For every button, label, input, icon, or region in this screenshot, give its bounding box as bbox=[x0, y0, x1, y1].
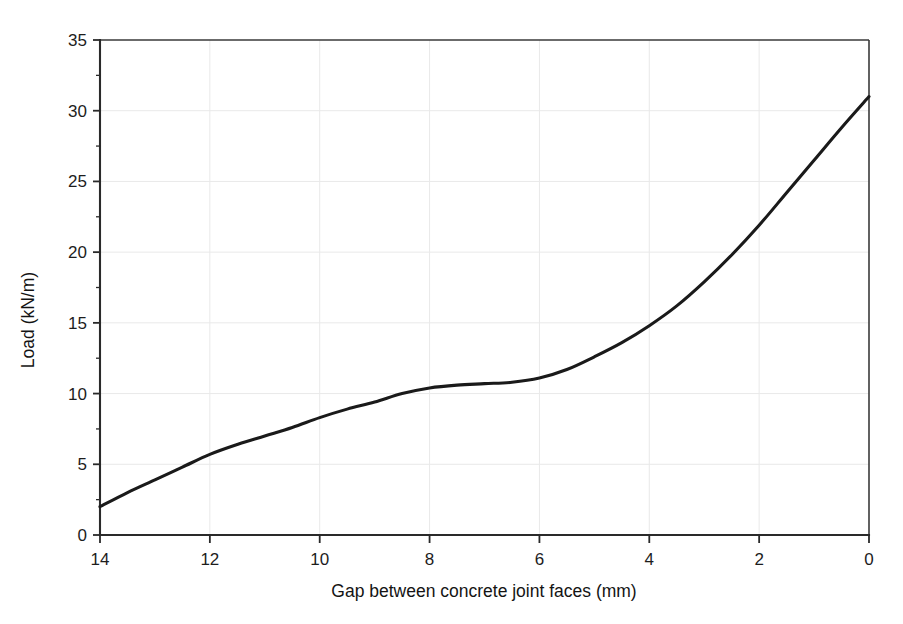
chart-plot-svg: 05101520253035 14121086420 Gap between c… bbox=[0, 0, 903, 624]
x-tick-label: 0 bbox=[864, 550, 873, 569]
x-tick-label: 10 bbox=[310, 550, 329, 569]
y-tick-label: 25 bbox=[68, 172, 87, 191]
x-tick-label: 6 bbox=[535, 550, 544, 569]
y-tick-label: 15 bbox=[68, 314, 87, 333]
y-tick-label: 30 bbox=[68, 102, 87, 121]
x-tick-label: 14 bbox=[91, 550, 110, 569]
y-tick-label: 20 bbox=[68, 243, 87, 262]
chart-figure: 05101520253035 14121086420 Gap between c… bbox=[0, 0, 903, 624]
x-axis-title: Gap between concrete joint faces (mm) bbox=[331, 581, 636, 601]
y-tick-label: 0 bbox=[78, 526, 87, 545]
y-tick-label: 10 bbox=[68, 385, 87, 404]
y-axis-tick-labels: 05101520253035 bbox=[68, 31, 87, 545]
x-tick-label: 12 bbox=[200, 550, 219, 569]
x-axis-tick-labels: 14121086420 bbox=[91, 550, 874, 569]
y-tick-label: 5 bbox=[78, 455, 87, 474]
x-tick-label: 4 bbox=[645, 550, 654, 569]
y-tick-label: 35 bbox=[68, 31, 87, 50]
plot-background bbox=[100, 40, 869, 535]
x-tick-label: 8 bbox=[425, 550, 434, 569]
y-axis-title: Load (kN/m) bbox=[18, 272, 38, 368]
x-tick-label: 2 bbox=[754, 550, 763, 569]
